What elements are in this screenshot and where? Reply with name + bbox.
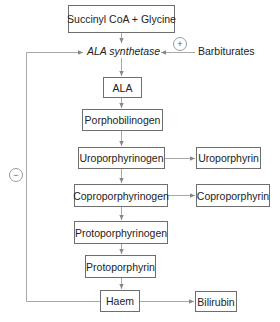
haem-synthesis-diagram: Succinyl CoA + Glycine ALA synthetase + … xyxy=(0,0,280,322)
node-label: Coproporphyrinogen xyxy=(73,190,169,202)
enzyme-ala-synthetase: ALA synthetase xyxy=(87,45,160,57)
plus-sign-icon: + xyxy=(173,37,187,51)
node-bilirubin: Bilirubin xyxy=(195,291,237,312)
node-ala: ALA xyxy=(103,77,142,98)
node-coproporphyrinogen: Coproporphyrinogen xyxy=(74,184,168,207)
node-porphobilinogen: Porphobilinogen xyxy=(82,109,163,131)
node-label: Protoporphyrinogen xyxy=(75,227,167,239)
node-haem: Haem xyxy=(100,290,140,312)
node-label: Bilirubin xyxy=(197,296,234,308)
node-protoporphyrinogen: Protoporphyrinogen xyxy=(74,221,168,244)
node-uroporphyrin: Uroporphyrin xyxy=(196,147,261,169)
node-label: Protoporphyrin xyxy=(86,261,155,273)
label-barbiturates: Barbiturates xyxy=(198,45,255,57)
node-succinyl-coa-glycine: Succinyl CoA + Glycine xyxy=(68,5,175,33)
node-label: Succinyl CoA + Glycine xyxy=(67,13,176,25)
node-protoporphyrin: Protoporphyrin xyxy=(85,255,156,278)
node-label: ALA xyxy=(113,82,133,94)
node-uroporphyrinogen: Uroporphyrinogen xyxy=(78,147,165,169)
node-coproporphyrin: Coproporphyrin xyxy=(196,184,270,207)
node-label: Coproporphyrin xyxy=(197,190,269,202)
node-label: Porphobilinogen xyxy=(85,114,161,126)
node-label: Uroporphyrin xyxy=(198,152,259,164)
node-label: Haem xyxy=(106,295,134,307)
minus-sign-icon: − xyxy=(9,168,23,182)
node-label: Uroporphyrinogen xyxy=(79,152,163,164)
